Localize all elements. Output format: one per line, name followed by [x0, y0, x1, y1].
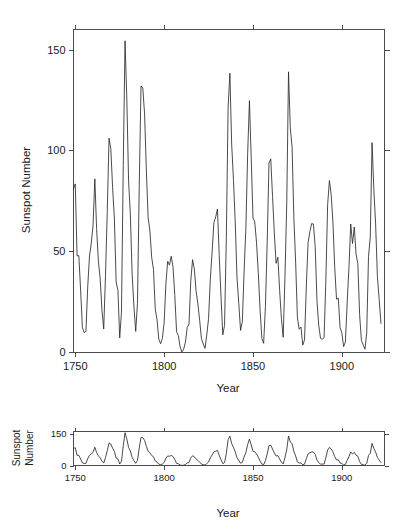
main-x-tick-label: 1800 [152, 360, 176, 372]
overview-x-axis-title: Year [216, 507, 239, 519]
overview-y-tick-label: 150 [51, 428, 67, 439]
main-y-tick-label: 50 [53, 245, 65, 257]
overview-y-axis-title-line2: Number [24, 430, 35, 466]
overview-y-tick-label: 0 [61, 460, 66, 471]
figure-background [0, 0, 409, 530]
sunspot-plot-svg: 050100150 1750180018501900 Sunspot Numbe… [0, 0, 409, 530]
main-y-tick-label: 0 [59, 346, 65, 358]
main-y-axis-title: Sunspot Number [20, 147, 32, 233]
main-y-tick-label: 150 [47, 44, 65, 56]
overview-x-tick-label: 1850 [242, 472, 263, 483]
overview-x-tick-label: 1750 [65, 472, 86, 483]
sunspot-figure: 050100150 1750180018501900 Sunspot Numbe… [0, 0, 409, 530]
main-x-tick-label: 1850 [241, 360, 265, 372]
overview-y-axis-title-line1: Sunspot [11, 429, 22, 466]
main-x-axis-title: Year [216, 382, 239, 394]
main-y-tick-label: 100 [47, 144, 65, 156]
main-x-tick-label: 1750 [63, 360, 87, 372]
main-x-tick-label: 1900 [330, 360, 354, 372]
overview-x-tick-label: 1900 [331, 472, 352, 483]
overview-x-tick-label: 1800 [154, 472, 175, 483]
